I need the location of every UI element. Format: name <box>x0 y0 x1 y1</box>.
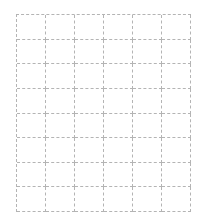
grid-cell <box>133 89 162 114</box>
grid-cell <box>75 40 104 65</box>
grid-cell <box>17 138 46 163</box>
grid-cell <box>17 64 46 89</box>
grid-cell <box>133 40 162 65</box>
grid-cell <box>162 138 191 163</box>
grid-cell <box>17 89 46 114</box>
grid-cell <box>133 187 162 212</box>
grid-cell <box>162 89 191 114</box>
grid-cell <box>162 114 191 139</box>
grid-cell <box>46 40 75 65</box>
grid-cell <box>17 163 46 188</box>
grid-cell <box>46 163 75 188</box>
grid-cell <box>133 163 162 188</box>
grid-cell <box>133 15 162 40</box>
grid-cell <box>46 187 75 212</box>
grid-cell <box>75 89 104 114</box>
grid-cell <box>75 15 104 40</box>
grid-cell <box>104 64 133 89</box>
grid-cell <box>17 15 46 40</box>
grid-cell <box>162 15 191 40</box>
grid-cell <box>75 114 104 139</box>
grid-cell <box>46 15 75 40</box>
grid-cell <box>133 64 162 89</box>
grid-cell <box>75 138 104 163</box>
grid-cell <box>104 40 133 65</box>
grid-cell <box>17 187 46 212</box>
grid-cell <box>104 138 133 163</box>
grid-cell <box>17 114 46 139</box>
grid-cell <box>75 163 104 188</box>
grid-cell <box>162 64 191 89</box>
grid-cell <box>75 64 104 89</box>
grid-cell <box>104 15 133 40</box>
grid-cell <box>46 114 75 139</box>
empty-grid <box>16 14 191 212</box>
grid-cell <box>162 187 191 212</box>
grid-cell <box>75 187 104 212</box>
grid-cell <box>162 40 191 65</box>
grid-cell <box>104 89 133 114</box>
grid-cell <box>104 114 133 139</box>
grid-cell <box>46 64 75 89</box>
grid-cell <box>17 40 46 65</box>
grid-cell <box>46 138 75 163</box>
grid-cell <box>162 163 191 188</box>
grid-cell <box>133 114 162 139</box>
grid-cell <box>133 138 162 163</box>
grid-cell <box>104 163 133 188</box>
grid-cell <box>104 187 133 212</box>
grid-cell <box>46 89 75 114</box>
